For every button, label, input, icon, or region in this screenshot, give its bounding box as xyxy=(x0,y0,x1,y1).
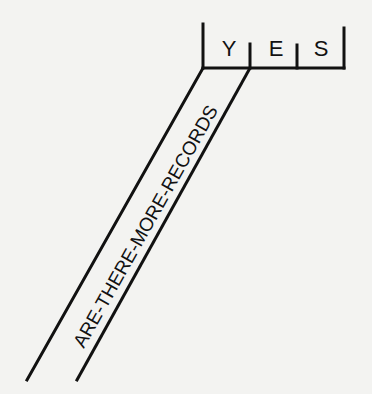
condition-band: ARE-THERE-MORE-RECORDS xyxy=(27,68,250,380)
condition-label: ARE-THERE-MORE-RECORDS xyxy=(69,102,222,351)
condition-branch-diagram: Y E S ARE-THERE-MORE-RECORDS xyxy=(0,0,372,394)
answer-letter-s: S xyxy=(314,36,329,61)
answer-letter-y: Y xyxy=(222,36,237,61)
condition-band-left-edge xyxy=(27,68,203,380)
answer-letter-e: E xyxy=(269,36,284,61)
condition-band-right-edge xyxy=(77,68,250,380)
answer-box-yes: Y E S xyxy=(203,24,344,68)
